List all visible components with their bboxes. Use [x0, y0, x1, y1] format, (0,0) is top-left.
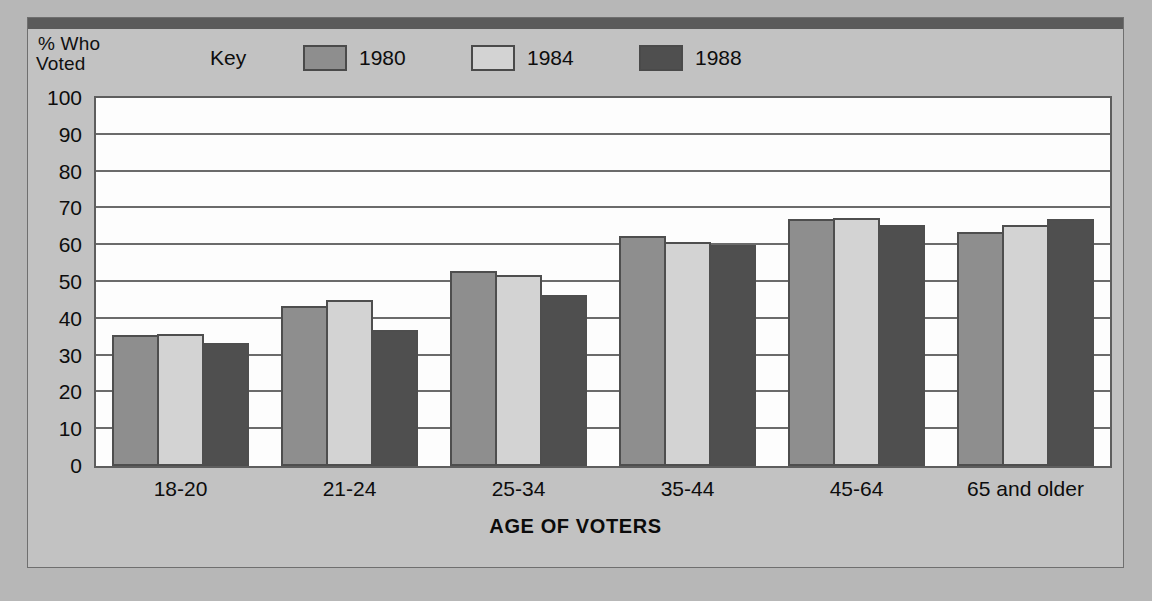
bar-group: [619, 98, 756, 466]
bar-1980-18-20: [112, 335, 159, 466]
y-tick-label: 0: [70, 454, 82, 478]
x-tick-label: 21-24: [323, 477, 377, 501]
y-tick-label: 70: [59, 196, 82, 220]
y-tick-label: 100: [47, 86, 82, 110]
y-axis-title-line2: Voted: [36, 54, 158, 74]
bar-1980-45-64: [788, 219, 835, 466]
legend-item-1980: 1980: [303, 45, 406, 71]
bar-1984-18-20: [157, 334, 204, 466]
bar-group: [957, 98, 1094, 466]
legend-item-1984: 1984: [471, 45, 574, 71]
bar-group: [112, 98, 249, 466]
bar-1980-21-24: [281, 306, 328, 466]
bar-1988-18-20: [202, 343, 249, 466]
y-tick-label: 80: [59, 160, 82, 184]
legend-key-label: Key: [210, 46, 246, 70]
y-axis-ticks: 0102030405060708090100: [28, 87, 90, 487]
plot-area: [94, 96, 1112, 468]
bars-layer: [96, 98, 1110, 466]
legend-label-1980: 1980: [359, 46, 406, 70]
chart-card: % Who Voted Key 1980 1984 1988 010203040…: [27, 17, 1124, 568]
bar-1984-35-44: [664, 242, 711, 466]
x-axis-tick-labels: 18-2021-2425-3435-4445-6465 and older: [94, 477, 1112, 511]
bar-1980-65-and-older: [957, 232, 1004, 466]
bar-1984-65-and-older: [1002, 225, 1049, 466]
y-tick-label: 30: [59, 344, 82, 368]
bar-group: [450, 98, 587, 466]
legend-swatch-1988: [639, 45, 683, 71]
y-axis-title: % Who Voted: [38, 34, 158, 74]
y-tick-label: 90: [59, 123, 82, 147]
chart-page: % Who Voted Key 1980 1984 1988 010203040…: [0, 0, 1152, 601]
legend-item-1988: 1988: [639, 45, 742, 71]
x-tick-label: 45-64: [830, 477, 884, 501]
y-axis-title-line1: % Who: [38, 34, 158, 54]
y-tick-label: 20: [59, 380, 82, 404]
chart-header: % Who Voted Key 1980 1984 1988: [28, 29, 1123, 87]
legend-label-1988: 1988: [695, 46, 742, 70]
plot-wrapper: 0102030405060708090100 18-2021-2425-3435…: [28, 87, 1123, 487]
y-tick-label: 60: [59, 233, 82, 257]
bar-1988-35-44: [709, 245, 756, 466]
bar-1980-25-34: [450, 271, 497, 466]
bar-1988-65-and-older: [1047, 219, 1094, 466]
y-tick-label: 50: [59, 270, 82, 294]
bar-1984-45-64: [833, 218, 880, 466]
legend-swatch-1984: [471, 45, 515, 71]
bar-1984-21-24: [326, 300, 373, 466]
bar-1988-21-24: [371, 330, 418, 466]
x-tick-label: 18-20: [154, 477, 208, 501]
bar-1988-25-34: [540, 295, 587, 466]
x-tick-label: 65 and older: [967, 477, 1084, 501]
x-tick-label: 35-44: [661, 477, 715, 501]
top-decorative-bar: [28, 18, 1123, 29]
y-tick-label: 40: [59, 307, 82, 331]
bar-group: [281, 98, 418, 466]
y-tick-label: 10: [59, 417, 82, 441]
bar-1988-45-64: [878, 225, 925, 466]
x-axis-title: AGE OF VOTERS: [28, 515, 1123, 538]
bar-1980-35-44: [619, 236, 666, 466]
bar-1984-25-34: [495, 275, 542, 466]
legend-label-1984: 1984: [527, 46, 574, 70]
x-tick-label: 25-34: [492, 477, 546, 501]
bar-group: [788, 98, 925, 466]
legend-swatch-1980: [303, 45, 347, 71]
